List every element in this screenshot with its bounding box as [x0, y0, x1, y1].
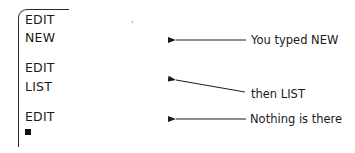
annotation-nothing-is-there: Nothing is there: [250, 112, 342, 126]
annotation-you-typed-new: You typed NEW: [251, 33, 338, 47]
arrow-left-icon: [176, 80, 245, 92]
annotation-then-list: then LIST: [251, 87, 305, 101]
annotation-arrows: [0, 0, 355, 153]
